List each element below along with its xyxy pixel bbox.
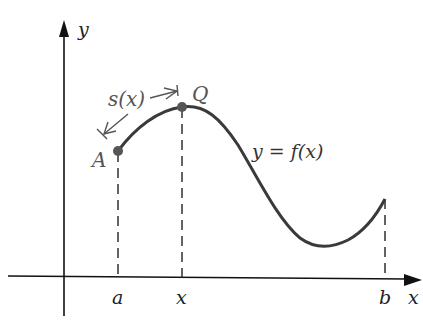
point-q-label: Q — [192, 82, 208, 106]
arc-arrow-right-tick — [177, 85, 178, 96]
y-axis-arrow-icon — [59, 20, 69, 37]
tick-label-x: x — [176, 286, 187, 308]
point-a-label: A — [90, 148, 106, 172]
curve-label: y = f(x) — [251, 140, 323, 162]
x-axis-arrow-icon — [404, 274, 422, 286]
tick-label-a: a — [112, 286, 123, 308]
point-a-marker — [113, 146, 123, 156]
arc-length-diagram: y x A Q s(x) y = f(x) a x b — [0, 0, 423, 320]
x-axis-label: x — [408, 286, 419, 308]
curve-f — [118, 107, 385, 247]
tick-label-b: b — [379, 286, 391, 308]
point-q-marker — [177, 102, 187, 112]
x-axis — [8, 276, 408, 279]
y-axis-label: y — [77, 18, 89, 40]
arc-length-label: s(x) — [108, 87, 145, 111]
